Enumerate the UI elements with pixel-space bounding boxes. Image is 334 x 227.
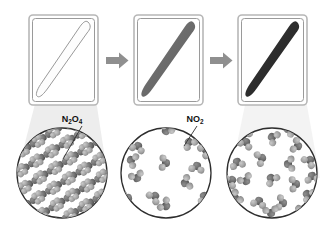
label-no2-sub1: 2 — [200, 118, 204, 125]
arrow-1 — [106, 53, 129, 69]
label-n2o4-sub2: 4 — [79, 118, 83, 125]
label-no2-no: NO — [186, 114, 200, 124]
label-no2: NO2 — [186, 114, 204, 125]
figure-container: N2O4 NO2 — [0, 0, 334, 227]
arrow-2 — [210, 53, 233, 69]
panel-2 — [134, 15, 203, 105]
panel-1 — [29, 15, 98, 105]
label-n2o4-o: O — [72, 114, 79, 124]
magnifier-circle-2 — [115, 121, 214, 218]
chemistry-diagram: N2O4 NO2 — [0, 0, 334, 227]
panel-3 — [238, 15, 307, 105]
